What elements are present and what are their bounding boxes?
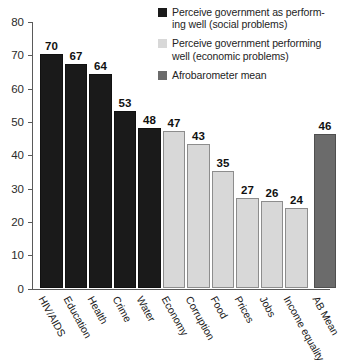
bar-column[interactable]: 64	[89, 21, 111, 288]
bar-value-label: 64	[94, 60, 107, 72]
bar-group: 706764534847433527262446	[34, 22, 330, 288]
y-axis-tick-label: 10	[11, 249, 24, 261]
bar-value-label: 26	[266, 187, 279, 199]
y-axis-tick-label: 70	[11, 49, 24, 61]
bar-column[interactable]: 26	[261, 21, 283, 288]
bar[interactable]	[114, 111, 136, 288]
y-axis-tick-label: 80	[11, 16, 24, 28]
bar-column[interactable]: 43	[187, 21, 209, 288]
bar-column[interactable]: 24	[285, 21, 307, 288]
bar-value-label: 24	[290, 194, 303, 206]
bar[interactable]	[261, 201, 283, 288]
x-axis-label: Food	[208, 294, 230, 320]
x-axis-label: Prices	[233, 294, 257, 325]
y-axis-tick	[28, 22, 33, 23]
x-axis-label: Jobs	[257, 294, 278, 319]
bar-column[interactable]: 27	[236, 21, 258, 288]
bar[interactable]	[65, 64, 87, 287]
legend-swatch-icon	[158, 8, 167, 17]
bar[interactable]	[40, 54, 62, 287]
x-axis-label: Water	[135, 294, 159, 324]
y-axis-tick-label: 30	[11, 183, 24, 195]
bar-value-label: 43	[192, 130, 205, 142]
y-axis-tick-label: 0	[18, 283, 24, 295]
bar-column[interactable]: 70	[40, 21, 62, 288]
bar-value-label: 67	[70, 50, 83, 62]
bar-chart: Perceive government as perform-ing well …	[0, 0, 364, 360]
bar-column[interactable]: 47	[163, 21, 185, 288]
y-axis-tick	[28, 255, 33, 256]
y-axis-tick	[28, 89, 33, 90]
y-axis-tick	[28, 222, 33, 223]
bar[interactable]	[314, 134, 336, 287]
bar-column[interactable]: 67	[65, 21, 87, 288]
bar-column[interactable]: 53	[114, 21, 136, 288]
y-axis-tick-label: 20	[11, 216, 24, 228]
bar[interactable]	[285, 208, 307, 288]
bar[interactable]	[212, 171, 234, 288]
y-axis-tick	[28, 289, 33, 290]
bar[interactable]	[89, 74, 111, 287]
y-axis-tick-label: 40	[11, 149, 24, 161]
bar-value-label: 48	[143, 114, 156, 126]
bar-column[interactable]: 46	[314, 21, 336, 288]
y-axis-tick	[28, 122, 33, 123]
plot-area: 01020304050607080 7067645348474335272624…	[32, 22, 330, 290]
bar[interactable]	[138, 128, 160, 288]
bar[interactable]	[163, 131, 185, 288]
bar[interactable]	[187, 144, 209, 287]
x-axis-label: AB Mean	[310, 294, 341, 337]
y-axis-tick	[28, 55, 33, 56]
bar-value-label: 53	[119, 97, 132, 109]
y-axis-tick	[28, 189, 33, 190]
bar-value-label: 35	[217, 157, 230, 169]
bar-value-label: 27	[241, 184, 254, 196]
x-axis-label: Crime	[110, 294, 134, 324]
y-axis-tick	[28, 155, 33, 156]
bar[interactable]	[236, 198, 258, 288]
bar-value-label: 46	[319, 120, 332, 132]
bar-column[interactable]: 35	[212, 21, 234, 288]
y-axis-tick-label: 60	[11, 83, 24, 95]
bar-column[interactable]: 48	[138, 21, 160, 288]
bar-value-label: 70	[45, 40, 58, 52]
bar-value-label: 47	[168, 117, 181, 129]
x-axis-label: Health	[86, 294, 111, 326]
y-axis-tick-label: 50	[11, 116, 24, 128]
